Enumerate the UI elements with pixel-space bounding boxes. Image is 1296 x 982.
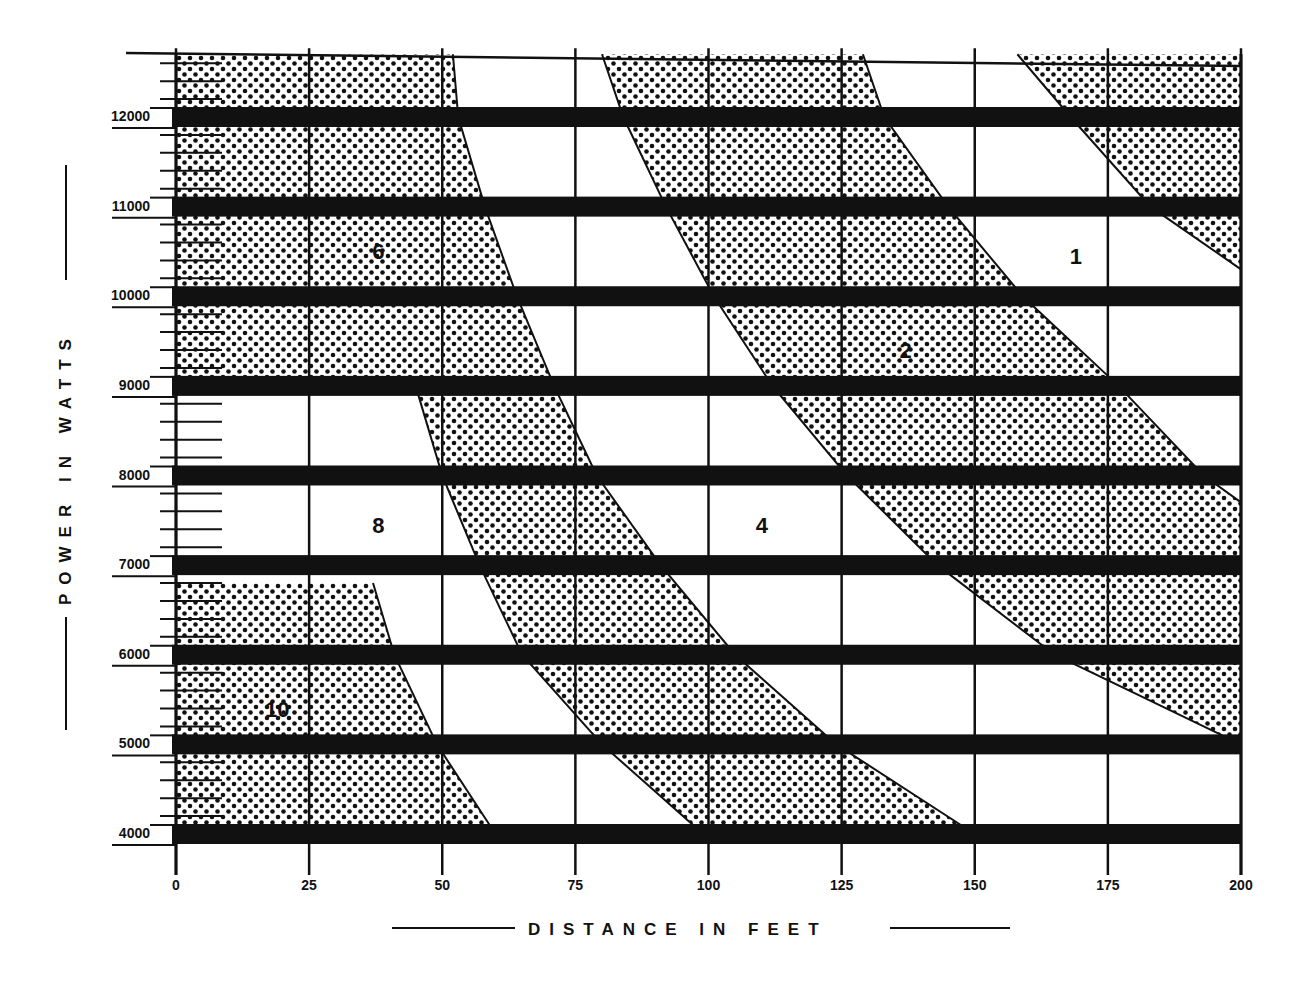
zone-label-4: 4 (756, 513, 769, 538)
x-tick-label: 200 (1229, 877, 1253, 893)
zone-10-shading (176, 583, 496, 843)
y-tick-label: 11000 (112, 198, 150, 214)
power-bar-8000 (172, 466, 1241, 486)
zone-label-2: 2 (899, 338, 911, 363)
zone-label-10: 10 (265, 697, 289, 722)
zone-label-6: 6 (372, 239, 384, 264)
x-tick-label: 0 (172, 877, 180, 893)
y-tick-label: 10000 (111, 287, 150, 303)
x-tick-label: 25 (301, 877, 317, 893)
power-bar-10000 (172, 286, 1241, 306)
chart-canvas: 4000500060007000800090001000011000120000… (0, 0, 1296, 982)
y-tick-label: 12000 (111, 108, 150, 124)
power-bar-9000 (172, 376, 1241, 396)
power-bar-4000 (172, 824, 1241, 844)
x-tick-label: 50 (434, 877, 450, 893)
y-tick-label: 4000 (119, 825, 150, 841)
power-bar-5000 (172, 734, 1241, 754)
y-tick-label: 6000 (119, 646, 150, 662)
x-tick-label: 175 (1096, 877, 1120, 893)
power-bar-11000 (172, 197, 1241, 217)
zone-top-right-shading (1017, 54, 1241, 269)
power-bar-7000 (172, 555, 1241, 575)
x-tick-label: 150 (963, 877, 987, 893)
power-bar-12000 (172, 107, 1241, 127)
y-tick-label: 7000 (119, 556, 150, 572)
x-tick-label: 75 (568, 877, 584, 893)
y-tick-label: 8000 (119, 467, 150, 483)
x-tick-label: 125 (830, 877, 854, 893)
y-tick-label: 5000 (119, 735, 150, 751)
zone-label-1: 1 (1070, 244, 1082, 269)
power-bar-6000 (172, 645, 1241, 665)
y-axis-title: POWER IN WATTS (56, 330, 75, 605)
y-tick-label: 9000 (119, 377, 150, 393)
zone-label-8: 8 (372, 513, 384, 538)
x-tick-label: 100 (697, 877, 721, 893)
x-axis-title: DISTANCE IN FEET (528, 920, 828, 939)
